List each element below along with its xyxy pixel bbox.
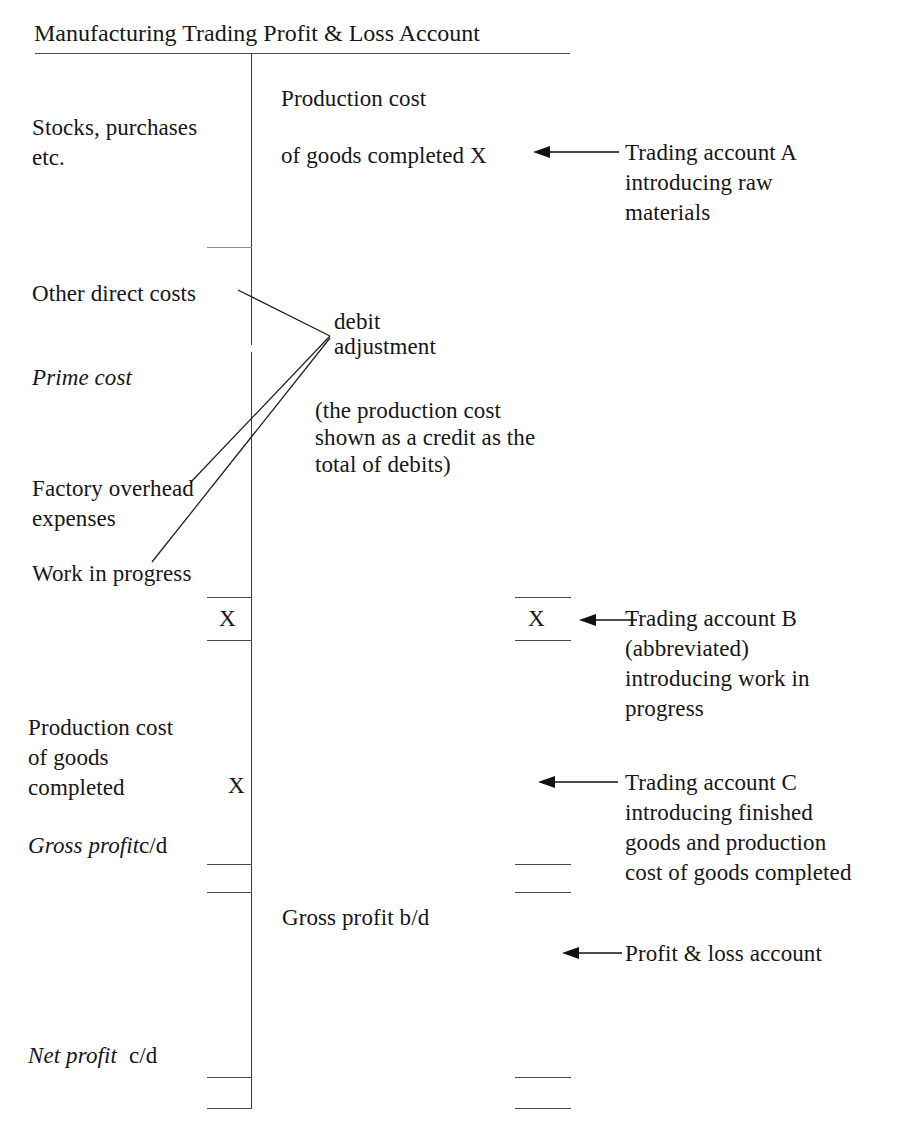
debit-total-rule-below [207,640,252,641]
credit-total-x: X [528,604,545,634]
debit-total-rule-above [207,597,252,598]
credit-total-rule-below [515,640,571,641]
debit-entry-production-cost-line2: of goods [28,743,109,773]
annotation-trading-account-c-line2: introducing finished [625,798,813,828]
debit-entry-net-profit-cd-italic: Net profit [28,1041,117,1071]
debit-gross-profit-rule-below [207,892,252,893]
credit-gross-profit-rule-below [515,892,571,893]
debit-subtotal-rule-1 [207,247,252,248]
annotation-trading-account-b-line4: progress [625,694,704,724]
debit-entry-prime-cost: Prime cost [32,363,132,393]
debit-entry-production-cost-line3: completed [28,773,125,803]
annotation-trading-account-c-line3: goods and production [625,828,826,858]
credit-note-explanation-line1: (the production cost [315,396,501,426]
credit-net-profit-rule-below [515,1108,571,1109]
credit-entry-production-cost-line1: Production cost [281,84,426,114]
debit-entry-stocks-purchases-line1: Stocks, purchases [32,113,197,143]
annotation-profit-and-loss-account: Profit & loss account [625,939,822,969]
credit-gross-profit-rule-above [515,864,571,865]
debit-entry-stocks-purchases-line2: etc. [32,143,65,173]
debit-entry-gross-profit-cd-roman: c/d [139,831,167,861]
arrow-to-profit-and-loss-account [562,941,624,965]
arrow-to-trading-account-a [533,140,623,164]
debit-entry-factory-overhead-line2: expenses [32,504,116,534]
debit-gross-profit-rule-above [207,864,252,865]
page-title: Manufacturing Trading Profit & Loss Acco… [34,18,480,48]
annotation-trading-account-a-line3: materials [625,198,710,228]
credit-net-profit-rule-above [515,1077,571,1078]
arrow-to-trading-account-c [538,770,620,794]
header-rule [35,53,570,54]
debit-entry-production-cost-line1: Production cost [28,713,173,743]
debit-entry-other-direct-costs: Other direct costs [32,279,196,309]
debit-total-x: X [219,604,236,634]
credit-note-debit-adjustment-line2: adjustment [334,332,436,362]
annotation-trading-account-c-line4: cost of goods completed [625,858,852,888]
annotation-trading-account-b-line1: Trading account B [625,604,797,634]
credit-entry-gross-profit-bd: Gross profit b/d [282,903,429,933]
annotation-trading-account-a-line2: introducing raw [625,168,773,198]
debit-net-profit-rule-below [207,1108,252,1109]
annotation-trading-account-a-line1: Trading account A [625,138,797,168]
annotation-trading-account-b-line3: introducing work in [625,664,810,694]
account-divider-lower [251,352,252,1109]
debit-entry-production-cost-amount: X [228,771,245,801]
credit-note-explanation-line2: shown as a credit as the [315,423,535,453]
annotation-trading-account-b-line2: (abbreviated) [625,634,749,664]
manufacturing-trading-profit-loss-diagram: Manufacturing Trading Profit & Loss Acco… [0,0,924,1139]
account-divider-upper [251,53,252,345]
credit-total-rule-above [515,597,571,598]
debit-entry-factory-overhead-line1: Factory overhead [32,474,194,504]
debit-entry-work-in-progress: Work in progress [32,559,191,589]
debit-entry-gross-profit-cd-italic: Gross profit [28,831,139,861]
debit-entry-net-profit-cd-roman: c/d [129,1041,157,1071]
credit-entry-production-cost-line2: of goods completed X [281,141,487,171]
credit-note-explanation-line3: total of debits) [315,450,451,480]
debit-net-profit-rule-above [207,1077,252,1078]
annotation-trading-account-c-line1: Trading account C [625,768,797,798]
